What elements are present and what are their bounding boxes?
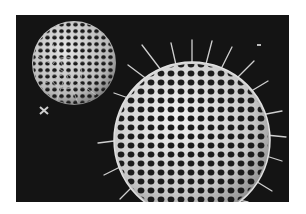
large-radiolarian [114,62,270,202]
debris [40,107,48,114]
small-radiolarian [32,21,116,105]
radiolarian-image [16,15,289,202]
micrograph-photo [16,15,289,202]
